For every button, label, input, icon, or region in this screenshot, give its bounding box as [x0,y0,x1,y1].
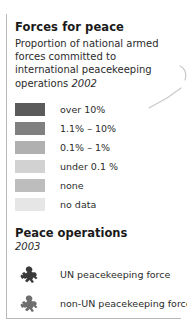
panel-subtitle-year: 2002 [71,78,96,89]
legend-item: over 10% [15,100,187,119]
panel-left-rule [6,14,7,319]
legend-swatch [15,141,45,154]
legend-item-label: no data [45,198,96,211]
map-legend-panel: Forces for peace Proportion of national … [0,0,187,331]
peace-operations-section: Peace operations 2003 UN peacekeeping [15,214,187,319]
legend-swatch [15,179,45,192]
legend-swatch [15,198,45,211]
legend-item: 0.1% – 1% [15,138,187,157]
section-title: Peace operations [15,227,187,240]
legend-swatch [15,122,45,135]
legend-item: no data [15,195,187,214]
operations-item-label: non-UN peacekeeping force [45,298,187,310]
legend-item-label: none [45,179,84,192]
legend-item-label: 1.1% – 10% [45,122,116,135]
page-title: Forces for peace [15,0,187,34]
legend-swatch [15,160,45,173]
legend-item-label: over 10% [45,103,105,116]
choropleth-key: over 10% 1.1% – 10% 0.1% – 1% under 0.1 … [15,90,187,214]
panel-subtitle: Proportion of national armed forces comm… [15,34,175,90]
legend-item-label: 0.1% – 1% [45,141,110,154]
legend-item: none [15,176,187,195]
operations-item: UN peacekeeping force [15,261,187,290]
operations-item-label: UN peacekeeping force [45,269,170,281]
legend-item: 1.1% – 10% [15,119,187,138]
peacekeeper-soldier-icon [15,294,45,314]
operations-item: non-UN peacekeeping force [15,290,187,319]
legend-content: Forces for peace Proportion of national … [15,0,187,319]
operations-key: UN peacekeeping force non-UN peacekeepin… [15,253,187,319]
legend-item: under 0.1 % [15,157,187,176]
legend-item-label: under 0.1 % [45,160,118,173]
legend-swatch [15,103,45,116]
section-year: 2003 [15,240,187,253]
peacekeeper-soldier-icon [15,265,45,285]
